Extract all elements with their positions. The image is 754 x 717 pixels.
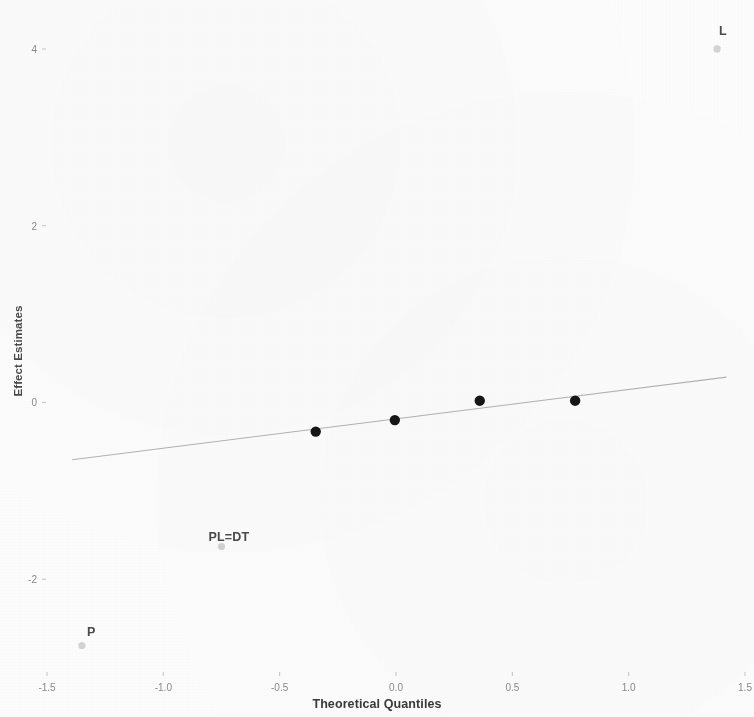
- qq-plot-chart: -1.5-1.0-0.50.00.51.01.5420-2 LPL=DTP Th…: [0, 0, 754, 717]
- data-point: [570, 395, 580, 405]
- x-tick-label: -1.5: [38, 682, 55, 693]
- data-point: [218, 543, 225, 550]
- x-tick-label: 1.5: [738, 682, 752, 693]
- y-tick-label: 4: [13, 43, 37, 54]
- data-point: [475, 395, 485, 405]
- x-tick-label: -0.5: [271, 682, 288, 693]
- x-tick-label: 0.5: [505, 682, 519, 693]
- x-tick-label: 0.0: [389, 682, 403, 693]
- x-tick-label: 1.0: [622, 682, 636, 693]
- y-tick-label: -2: [13, 574, 37, 585]
- point-annotation-label: P: [87, 625, 96, 639]
- data-point: [311, 426, 321, 436]
- point-annotation-label: PL=DT: [208, 530, 249, 544]
- data-point: [78, 642, 85, 649]
- x-axis-title: Theoretical Quantiles: [0, 697, 754, 711]
- y-tick-label: 2: [13, 220, 37, 231]
- y-axis-title: Effect Estimates: [12, 281, 24, 421]
- point-annotation-label: L: [719, 24, 727, 38]
- data-point: [390, 415, 400, 425]
- data-point: [713, 45, 720, 52]
- plot-area: [0, 0, 754, 717]
- x-tick-label: -1.0: [155, 682, 172, 693]
